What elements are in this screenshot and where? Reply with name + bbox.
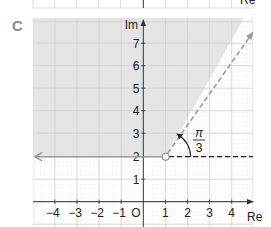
y-tick-label: 6: [133, 59, 140, 73]
previous-axis-label: Re: [240, 0, 256, 7]
x-tick-label: −1: [112, 206, 126, 220]
argand-diagram-svg: Re: [0, 0, 271, 227]
part-label: C: [12, 17, 23, 34]
y-tick-label: 7: [133, 37, 140, 51]
x-tick-label: 4: [228, 206, 235, 220]
y-tick-label: 1: [133, 173, 140, 187]
x-axis-label: Re: [247, 210, 263, 224]
y-tick-label: 3: [133, 127, 140, 141]
angle-numerator: π: [195, 126, 204, 140]
x-tick-label: 1: [162, 206, 169, 220]
x-tick-label: 2: [184, 206, 191, 220]
argand-diagram-figure: Re: [0, 0, 271, 227]
y-axis-label: Im: [125, 18, 138, 32]
y-tick-label: 5: [133, 82, 140, 96]
vertex-open-circle: [162, 153, 169, 160]
previous-figure-fragment: Re: [33, 0, 256, 8]
y-tick-label: 4: [133, 104, 140, 118]
origin-label: O: [131, 206, 140, 220]
x-tick-label: −2: [90, 206, 104, 220]
x-tick-label: −4: [46, 206, 60, 220]
x-tick-label: 3: [206, 206, 213, 220]
x-tick-label: −3: [68, 206, 82, 220]
angle-denominator: 3: [196, 141, 203, 155]
